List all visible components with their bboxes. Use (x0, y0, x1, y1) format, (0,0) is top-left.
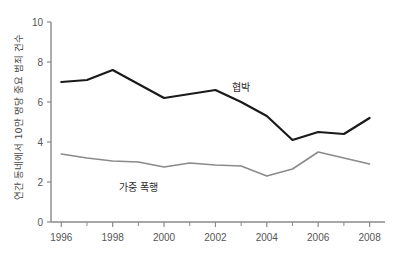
x-tick-label: 2006 (307, 232, 330, 243)
y-tick-label: 10 (32, 17, 44, 28)
series-line-threat (61, 70, 369, 140)
y-tick-label: 2 (37, 177, 43, 188)
y-tick-label: 0 (37, 217, 43, 228)
series-annotation-threat: 협박 (232, 81, 250, 93)
x-tick-label: 2002 (204, 232, 227, 243)
y-tick-label: 6 (37, 97, 43, 108)
line-chart-plot: 02468101996199820002002200420062008협박가중 … (0, 0, 401, 264)
x-tick-label: 1996 (50, 232, 73, 243)
chart-container: 연간 동네에서 10만 명당 중요 범죄 건수 0246810199619982… (0, 0, 401, 264)
series-line-aggravated-assault (61, 152, 369, 176)
y-tick-label: 4 (37, 137, 43, 148)
y-tick-label: 8 (37, 57, 43, 68)
x-tick-label: 2004 (256, 232, 279, 243)
x-tick-label: 1998 (102, 232, 125, 243)
series-annotation-aggravated-assault: 가중 폭행 (119, 182, 158, 193)
x-tick-label: 2008 (358, 232, 381, 243)
x-tick-label: 2000 (153, 232, 176, 243)
